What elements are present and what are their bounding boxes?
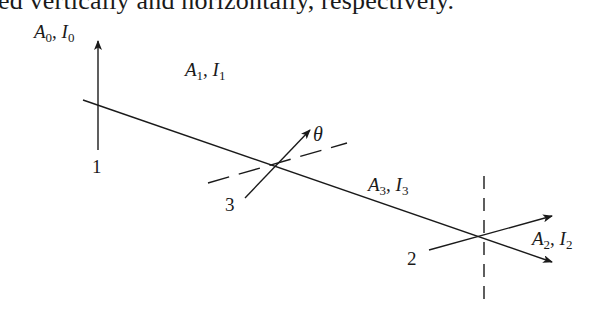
amplitude-symbol: A	[34, 21, 46, 42]
amplitude-symbol: A	[185, 59, 197, 80]
polarizer-3-axis-arrow	[245, 130, 310, 198]
amplitude-symbol: A	[368, 174, 380, 195]
separator: ,	[52, 21, 62, 42]
label-a3-i3: A3, I3	[368, 174, 408, 196]
label-a2-i2: A2, I2	[532, 228, 572, 250]
intensity-subscript: 2	[566, 237, 573, 252]
label-a1-i1: A1, I1	[185, 59, 225, 81]
polarizer-2-label: 2	[407, 248, 417, 270]
polarizer-1-label: 1	[92, 156, 102, 178]
label-a0-i0: A0, I0	[34, 21, 74, 43]
amplitude-symbol: A	[532, 228, 544, 249]
intensity-subscript: 1	[219, 68, 226, 83]
separator: ,	[550, 228, 560, 249]
separator: ,	[386, 174, 396, 195]
polarizer-diagram	[0, 0, 609, 310]
theta-angle-label: θ	[313, 123, 323, 146]
intensity-subscript: 0	[68, 30, 75, 45]
intensity-subscript: 3	[402, 183, 409, 198]
separator: ,	[203, 59, 213, 80]
polarizer-3-label: 3	[225, 194, 235, 216]
